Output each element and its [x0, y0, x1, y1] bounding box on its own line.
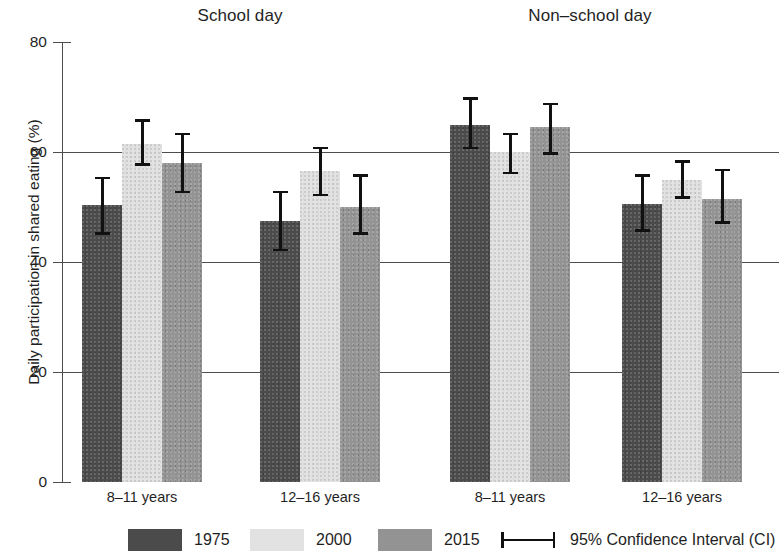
bar-2000-group-4	[662, 180, 702, 483]
ci-line	[502, 539, 554, 542]
error-bar-stem	[359, 174, 362, 235]
legend-item-1975: 1975	[128, 528, 230, 552]
bar-1975-group-3	[450, 125, 490, 483]
error-bar-2015-group-4	[702, 169, 742, 224]
error-bar-cap-lower	[675, 196, 690, 199]
error-bar-stem	[319, 147, 322, 197]
bar-1975-group-1	[82, 205, 122, 482]
legend-label-confidence-interval: 95% Confidence Interval (CI)	[570, 531, 775, 549]
bar-2000-group-3	[490, 152, 530, 482]
legend-item-2015: 2015	[378, 528, 480, 552]
error-bar-stem	[141, 119, 144, 166]
legend-label-1975: 1975	[194, 531, 230, 549]
y-tick-mark-20	[53, 372, 62, 373]
error-bar-2000-group-1	[122, 119, 162, 166]
error-bar-cap-upper	[313, 147, 328, 150]
error-bar-cap-upper	[675, 160, 690, 163]
error-bar-cap-lower	[313, 194, 328, 197]
error-bar-2000-group-3	[490, 133, 530, 174]
y-tick-label-40: 40	[30, 253, 47, 271]
error-bar-stem	[681, 160, 684, 199]
error-bar-cap-upper	[95, 177, 110, 180]
legend-swatch-1975	[128, 529, 182, 551]
bar-2015-group-2	[340, 207, 380, 482]
error-bar-1975-group-4	[622, 174, 662, 232]
panel-title-non-school-day: Non–school day	[450, 6, 730, 26]
error-bar-stem	[549, 103, 552, 155]
legend-item-confidence-interval: 95% Confidence Interval (CI)	[498, 528, 775, 552]
y-tick-label-20: 20	[30, 363, 47, 381]
y-tick-mark-60	[53, 152, 62, 153]
error-bar-cap-lower	[715, 221, 730, 224]
error-bar-stem	[721, 169, 724, 224]
y-tick-mark-0	[53, 482, 62, 483]
y-tick-label-60: 60	[30, 143, 47, 161]
error-bar-stem	[279, 191, 282, 252]
error-bar-2015-group-1	[162, 133, 202, 194]
y-axis-top-cap	[62, 42, 71, 43]
error-bar-cap-lower	[135, 163, 150, 166]
legend-swatch-2000	[250, 529, 304, 551]
error-bar-1975-group-1	[82, 177, 122, 235]
error-bar-cap-lower	[95, 232, 110, 235]
y-axis-label: Daily participation in shared eating (%)	[25, 22, 43, 482]
bar-2000-group-2	[300, 171, 340, 482]
legend-swatch-2015	[378, 529, 432, 551]
error-bar-cap-lower	[463, 147, 478, 150]
error-bar-stem	[101, 177, 104, 235]
group-label-3: 8–11 years	[440, 489, 580, 505]
plot-area: 806040200	[62, 42, 779, 482]
y-tick-mark-80	[53, 42, 62, 43]
error-bar-cap-upper	[715, 169, 730, 172]
group-label-2: 12–16 years	[250, 489, 390, 505]
error-bar-cap-lower	[175, 191, 190, 194]
panel-title-school-day: School day	[120, 6, 360, 26]
legend-item-2000: 2000	[250, 528, 352, 552]
error-bar-cap-upper	[175, 133, 190, 136]
legend-label-2015: 2015	[444, 531, 480, 549]
confidence-interval-icon	[498, 532, 558, 548]
error-bar-1975-group-2	[260, 191, 300, 252]
error-bar-cap-lower	[543, 152, 558, 155]
y-tick-mark-40	[53, 262, 62, 263]
error-bar-2000-group-2	[300, 147, 340, 197]
error-bar-stem	[469, 97, 472, 149]
bar-1975-group-4	[622, 204, 662, 482]
error-bar-2015-group-2	[340, 174, 380, 235]
error-bar-cap-upper	[503, 133, 518, 136]
y-tick-label-80: 80	[30, 33, 47, 51]
bar-2015-group-4	[702, 199, 742, 482]
bar-2000-group-1	[122, 144, 162, 482]
error-bar-2015-group-3	[530, 103, 570, 155]
error-bar-2000-group-4	[662, 160, 702, 199]
y-axis-bottom-cap	[62, 482, 71, 483]
error-bar-stem	[641, 174, 644, 232]
error-bar-cap-lower	[353, 232, 368, 235]
group-label-4: 12–16 years	[612, 489, 752, 505]
chart-legend: 19752000201595% Confidence Interval (CI)	[0, 524, 779, 556]
error-bar-cap-upper	[353, 174, 368, 177]
legend-label-2000: 2000	[316, 531, 352, 549]
y-tick-label-0: 0	[38, 473, 47, 491]
error-bar-cap-upper	[463, 97, 478, 100]
error-bar-cap-lower	[503, 172, 518, 175]
ci-end-right	[553, 532, 556, 548]
group-label-1: 8–11 years	[72, 489, 212, 505]
ci-end-left	[501, 532, 504, 548]
error-bar-cap-lower	[635, 229, 650, 232]
error-bar-stem	[509, 133, 512, 174]
error-bar-cap-lower	[273, 249, 288, 252]
error-bar-cap-upper	[135, 119, 150, 122]
error-bar-cap-upper	[273, 191, 288, 194]
bar-2015-group-1	[162, 163, 202, 482]
error-bar-cap-upper	[635, 174, 650, 177]
error-bar-1975-group-3	[450, 97, 490, 149]
bar-chart-figure: School day Non–school day Daily particip…	[0, 0, 779, 559]
bar-1975-group-2	[260, 221, 300, 482]
error-bar-stem	[181, 133, 184, 194]
error-bar-cap-upper	[543, 103, 558, 106]
bar-2015-group-3	[530, 127, 570, 482]
